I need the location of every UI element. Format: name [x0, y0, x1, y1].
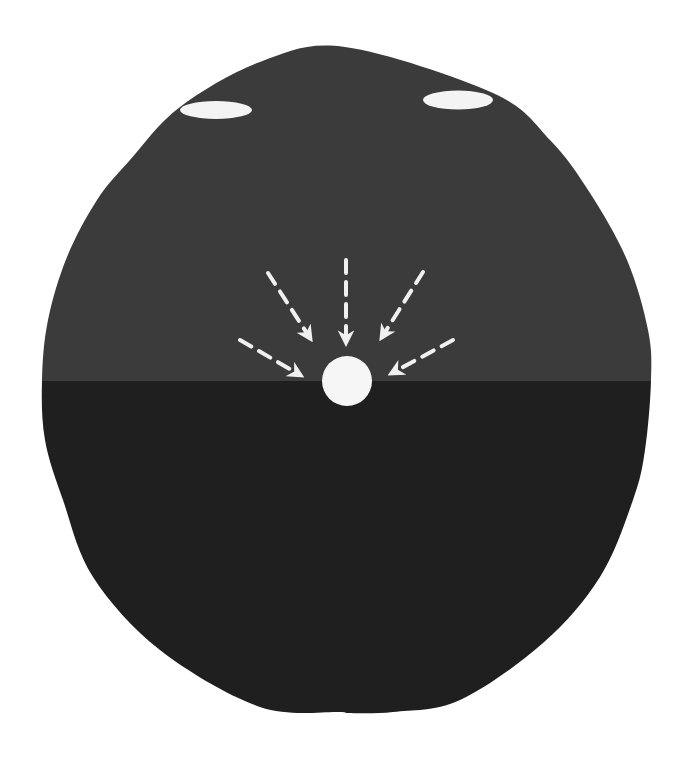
diagram-canvas: Dashed arrows converging on a central po…: [0, 0, 693, 761]
left-oval-shape: [180, 101, 252, 119]
lower-region: [0, 381, 693, 761]
focal-point-dot: [322, 356, 372, 406]
upper-region: [0, 0, 693, 381]
head-diagram-svg: [0, 0, 693, 761]
right-oval-shape: [423, 91, 493, 110]
